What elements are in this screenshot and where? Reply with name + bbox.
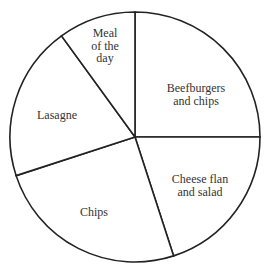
slice-label: Lasagne xyxy=(37,108,77,122)
pie-slices xyxy=(10,12,260,262)
slice-label: Chips xyxy=(80,205,108,219)
slice-label: Beefburgersand chips xyxy=(167,81,226,108)
slice-label: Cheese flanand salad xyxy=(172,172,228,199)
pie-chart: Beefburgersand chipsCheese flanand salad… xyxy=(0,0,264,275)
pie-slice-beefburgers-and-chips xyxy=(135,12,260,137)
